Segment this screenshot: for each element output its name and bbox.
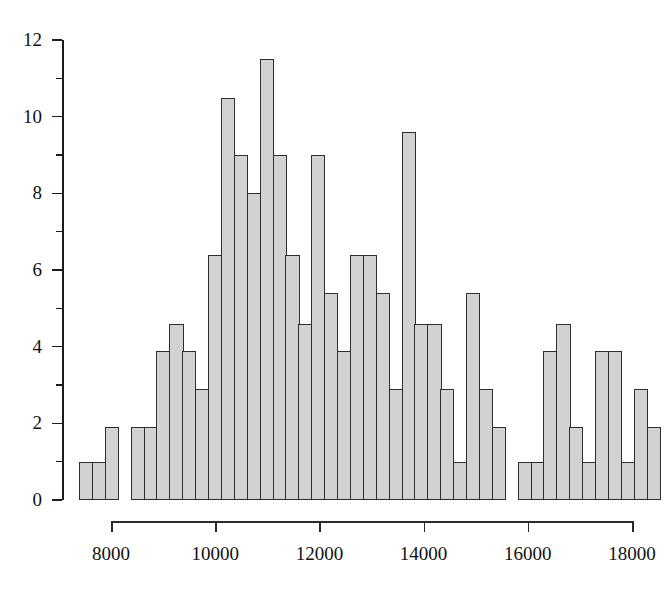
histogram-bar bbox=[647, 427, 661, 500]
x-tick-label: 18000 bbox=[592, 544, 671, 563]
x-tick-label: 12000 bbox=[279, 544, 359, 563]
plot-area: 024681012 80001000012000140001600018000 bbox=[0, 0, 671, 591]
x-tick bbox=[632, 521, 634, 532]
histogram-bar bbox=[492, 427, 506, 500]
histogram-bar bbox=[105, 427, 119, 500]
x-tick bbox=[319, 521, 321, 532]
x-tick bbox=[528, 521, 530, 532]
x-tick bbox=[215, 521, 217, 532]
bars-layer bbox=[0, 0, 671, 591]
x-tick-label: 16000 bbox=[488, 544, 568, 563]
histogram-chart: 024681012 80001000012000140001600018000 bbox=[0, 0, 671, 591]
x-tick bbox=[424, 521, 426, 532]
x-tick bbox=[111, 521, 113, 532]
x-tick-label: 10000 bbox=[175, 544, 255, 563]
x-axis-line bbox=[111, 521, 632, 523]
x-tick-label: 14000 bbox=[384, 544, 464, 563]
x-tick-label: 8000 bbox=[71, 544, 151, 563]
